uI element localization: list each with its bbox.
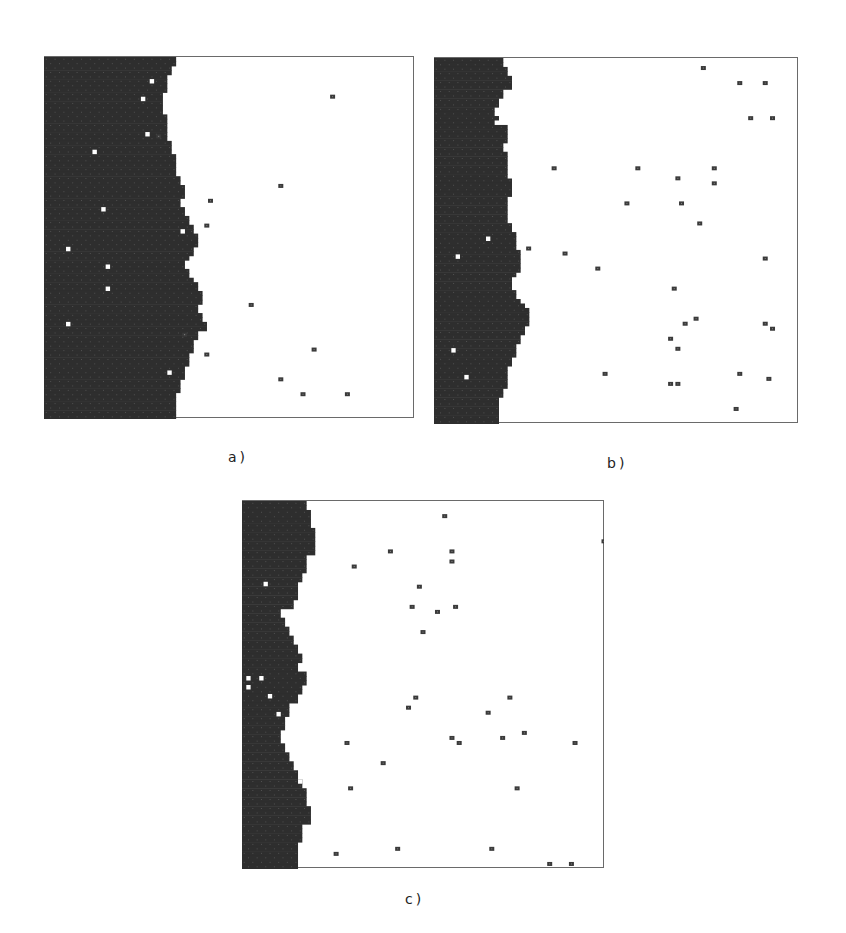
panel-b [434, 57, 798, 423]
panel-label-b: b) [607, 455, 627, 471]
panel-label-c: c) [405, 891, 424, 907]
panel-a [44, 56, 414, 418]
lattice-plot-a [44, 57, 414, 419]
lattice-plot-b [434, 58, 798, 424]
panel-c [242, 500, 604, 868]
panel-label-a: a) [228, 449, 248, 465]
lattice-plot-c [242, 501, 604, 869]
